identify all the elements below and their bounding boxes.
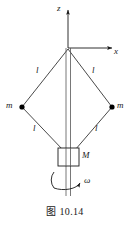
rod-lower-left bbox=[22, 107, 63, 150]
rod-length-label-upper-right: l bbox=[92, 66, 95, 75]
z-axis-label: z bbox=[57, 4, 61, 13]
rod-lower-right bbox=[75, 107, 112, 150]
rod-upper-left bbox=[22, 49, 68, 107]
x-axis-label: x bbox=[114, 47, 118, 56]
sliding-block bbox=[58, 148, 79, 166]
central-shaft bbox=[66, 48, 71, 196]
rod-upper-right bbox=[68, 49, 112, 107]
mass-markers bbox=[19, 104, 114, 109]
figure-caption: 图 10.14 bbox=[0, 203, 130, 218]
mass-label-left: m bbox=[6, 101, 13, 110]
rod-length-label-upper-left: l bbox=[36, 66, 39, 75]
rod-length-label-lower-left: l bbox=[33, 124, 36, 133]
angular-velocity-label: ω bbox=[84, 176, 90, 185]
block-rect bbox=[58, 148, 79, 166]
block-mass-label: M bbox=[82, 151, 90, 160]
mass-dot-right bbox=[109, 104, 114, 109]
diagram-canvas bbox=[0, 0, 130, 200]
mass-label-right: m bbox=[117, 101, 124, 110]
figure-container: z x l l l l m m M ω 图 10.14 bbox=[0, 0, 130, 227]
rod-length-label-lower-right: l bbox=[95, 124, 98, 133]
mass-dot-left bbox=[19, 104, 24, 109]
